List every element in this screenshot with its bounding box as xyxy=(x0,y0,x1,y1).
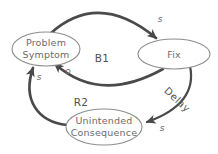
polarity-o-fix-to-problem: o xyxy=(65,66,71,76)
node-fix: Fix xyxy=(138,39,210,69)
node-unintended-consequence-label-line1: Unintended xyxy=(75,115,132,126)
causal-loop-diagram: Problem Symptom Fix Unintended Consequen… xyxy=(0,0,218,154)
node-unintended-consequence: Unintended Consequence xyxy=(66,109,142,145)
arrow-fix-to-problem xyxy=(55,64,163,85)
loop-label-r2: R2 xyxy=(74,96,89,108)
node-unintended-consequence-label-line2: Consequence xyxy=(71,127,137,138)
polarity-s-consequence-to-problem: s xyxy=(37,72,42,82)
arrow-consequence-to-problem xyxy=(30,68,67,125)
node-fix-label: Fix xyxy=(167,49,181,60)
node-problem-symptom-label-line2: Symptom xyxy=(22,49,69,60)
fixes-that-fail-diagram: Problem Symptom Fix Unintended Consequen… xyxy=(0,0,218,154)
node-problem-symptom-label-line1: Problem xyxy=(26,37,66,48)
node-problem-symptom: Problem Symptom xyxy=(12,32,80,66)
polarity-s-fix-to-consequence: s xyxy=(160,123,165,133)
loop-label-b1: B1 xyxy=(95,52,109,64)
arrow-problem-to-fix xyxy=(50,13,156,38)
polarity-s-problem-to-fix: s xyxy=(158,14,163,24)
